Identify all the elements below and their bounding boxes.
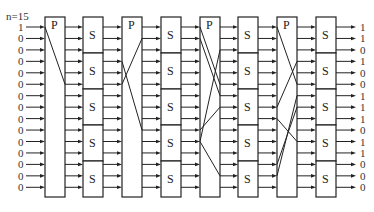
- arrowhead-icon: [78, 186, 83, 190]
- arrowhead-icon: [40, 128, 45, 132]
- arrowhead-icon: [117, 174, 122, 178]
- s-box-label: S: [167, 28, 174, 42]
- s-box-label: S: [89, 64, 96, 78]
- arrowhead-icon: [351, 140, 356, 144]
- arrowhead-icon: [40, 163, 45, 167]
- arrowhead-icon: [78, 25, 83, 29]
- output-bit: 1: [360, 32, 366, 44]
- input-bit: 0: [18, 55, 24, 67]
- arrowhead-icon: [233, 174, 238, 178]
- arrowhead-icon: [311, 174, 316, 178]
- input-bits: 100000000000000: [18, 21, 24, 193]
- wires: [26, 25, 356, 189]
- arrowhead-icon: [272, 151, 277, 155]
- arrowhead-icon: [272, 82, 277, 86]
- arrowhead-icon: [40, 117, 45, 121]
- s-box-label: S: [244, 64, 251, 78]
- arrowhead-icon: [233, 37, 238, 41]
- s-box-label: S: [244, 136, 251, 150]
- arrowhead-icon: [78, 71, 83, 75]
- arrowhead-icon: [272, 25, 277, 29]
- arrowhead-icon: [117, 151, 122, 155]
- arrowhead-icon: [40, 94, 45, 98]
- input-bit: 0: [18, 67, 24, 79]
- arrowhead-icon: [351, 37, 356, 41]
- input-bit: 1: [18, 21, 24, 33]
- arrowhead-icon: [156, 174, 161, 178]
- arrowhead-icon: [195, 82, 200, 86]
- arrowhead-icon: [233, 151, 238, 155]
- arrowhead-icon: [311, 94, 316, 98]
- arrowhead-icon: [156, 25, 161, 29]
- s-box-label: S: [89, 172, 96, 186]
- arrowhead-icon: [311, 48, 316, 52]
- input-bit: 0: [18, 158, 24, 170]
- p-box: [122, 17, 142, 197]
- arrowhead-icon: [78, 174, 83, 178]
- output-bit: 0: [360, 170, 366, 182]
- arrowhead-icon: [195, 25, 200, 29]
- arrowhead-icon: [40, 140, 45, 144]
- arrowhead-icon: [351, 105, 356, 109]
- p-box-label: P: [51, 18, 58, 32]
- output-bit: 1: [360, 55, 366, 67]
- output-bit: 1: [360, 136, 366, 148]
- arrowhead-icon: [156, 105, 161, 109]
- s-box-label: S: [244, 172, 251, 186]
- arrowhead-icon: [78, 60, 83, 64]
- arrowhead-icon: [272, 117, 277, 121]
- arrowhead-icon: [117, 163, 122, 167]
- arrowhead-icon: [311, 105, 316, 109]
- arrowhead-icon: [78, 140, 83, 144]
- arrowhead-icon: [311, 60, 316, 64]
- input-bit: 0: [18, 147, 24, 159]
- arrowhead-icon: [351, 163, 356, 167]
- arrowhead-icon: [117, 105, 122, 109]
- arrowhead-icon: [117, 186, 122, 190]
- arrowhead-icon: [233, 128, 238, 132]
- arrowhead-icon: [78, 128, 83, 132]
- arrowhead-icon: [78, 48, 83, 52]
- arrowhead-icon: [272, 174, 277, 178]
- arrowhead-icon: [195, 186, 200, 190]
- output-bit: 1: [360, 113, 366, 125]
- arrowhead-icon: [156, 151, 161, 155]
- arrowhead-icon: [78, 117, 83, 121]
- s-box-label: S: [322, 28, 329, 42]
- input-bit: 0: [18, 170, 24, 182]
- s-box-label: S: [322, 100, 329, 114]
- arrowhead-icon: [156, 37, 161, 41]
- p-box-label: P: [206, 18, 213, 32]
- arrowhead-icon: [156, 163, 161, 167]
- s-box-label: S: [322, 172, 329, 186]
- s-box-label: S: [244, 28, 251, 42]
- arrowhead-icon: [117, 60, 122, 64]
- arrowhead-icon: [156, 60, 161, 64]
- arrowhead-icon: [272, 128, 277, 132]
- arrowhead-icon: [195, 140, 200, 144]
- arrowhead-icon: [233, 60, 238, 64]
- arrowhead-icon: [195, 105, 200, 109]
- output-bit: 0: [360, 158, 366, 170]
- p-box-label: P: [283, 18, 290, 32]
- arrowhead-icon: [78, 94, 83, 98]
- arrowhead-icon: [156, 82, 161, 86]
- arrowhead-icon: [40, 105, 45, 109]
- arrowhead-icon: [40, 82, 45, 86]
- arrowhead-icon: [195, 48, 200, 52]
- arrowhead-icon: [233, 163, 238, 167]
- output-bit: 0: [360, 44, 366, 56]
- arrowhead-icon: [40, 71, 45, 75]
- input-bit: 0: [18, 78, 24, 90]
- arrowhead-icon: [272, 71, 277, 75]
- arrowhead-icon: [195, 60, 200, 64]
- arrowhead-icon: [156, 140, 161, 144]
- input-bit: 0: [18, 136, 24, 148]
- arrowhead-icon: [311, 37, 316, 41]
- arrowhead-icon: [272, 186, 277, 190]
- input-bit: 0: [18, 101, 24, 113]
- arrowhead-icon: [272, 163, 277, 167]
- s-box-label: S: [167, 100, 174, 114]
- arrowhead-icon: [351, 128, 356, 132]
- input-bit: 0: [18, 32, 24, 44]
